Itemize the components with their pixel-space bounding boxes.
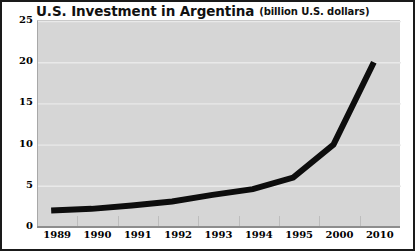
chart-title-block: U.S. Investment in Argentina (billion U.…: [36, 2, 369, 20]
x-axis-tick-label: 1990: [84, 230, 112, 240]
x-axis-tick-label: 1994: [245, 230, 273, 240]
gridlines: [38, 22, 401, 187]
y-axis-tick-label: 0: [5, 221, 33, 231]
x-axis-tick-mark: [279, 216, 280, 226]
x-axis-tick-mark: [239, 216, 240, 226]
y-axis-tick-label: 15: [5, 97, 33, 107]
series-line-group: [51, 62, 374, 210]
x-axis: 198919901991199219931994199520002010: [37, 228, 400, 250]
x-axis-tick-label: 1991: [124, 230, 152, 240]
chart-units-label: (billion U.S. dollars): [259, 6, 369, 17]
x-axis-tick-mark: [198, 216, 199, 226]
x-axis-tick-label: 1989: [43, 230, 71, 240]
x-axis-tick-mark: [118, 216, 119, 226]
x-axis-tick-mark: [158, 216, 159, 226]
y-axis: 0510152025: [2, 20, 33, 226]
plot-svg: [38, 21, 401, 227]
chart-figure: U.S. Investment in Argentina (billion U.…: [0, 0, 415, 251]
x-axis-tick-label: 2000: [326, 230, 354, 240]
page-title: U.S. Investment in Argentina: [36, 3, 254, 19]
x-axis-tick-label: 1992: [164, 230, 192, 240]
x-axis-tick-label: 2010: [366, 230, 394, 240]
x-axis-tick-mark: [360, 216, 361, 226]
y-axis-tick-label: 20: [5, 56, 33, 66]
x-axis-tick-label: 1993: [205, 230, 233, 240]
x-axis-tick-mark: [77, 216, 78, 226]
y-axis-tick-label: 25: [5, 15, 33, 25]
x-axis-tick-label: 1995: [285, 230, 313, 240]
series-line: [51, 62, 374, 210]
x-axis-tick-mark: [319, 216, 320, 226]
plot-area: [37, 20, 400, 226]
y-axis-tick-label: 10: [5, 139, 33, 149]
y-axis-tick-label: 5: [5, 180, 33, 190]
